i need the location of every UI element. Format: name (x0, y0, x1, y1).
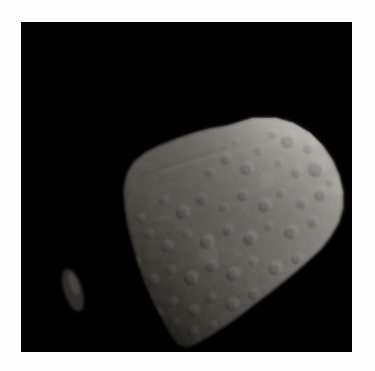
asteroid-photograph (21, 22, 352, 352)
detached-fragment (58, 266, 89, 313)
crater-floor (142, 295, 149, 302)
asteroid-render (21, 22, 352, 352)
page-canvas (0, 0, 375, 371)
